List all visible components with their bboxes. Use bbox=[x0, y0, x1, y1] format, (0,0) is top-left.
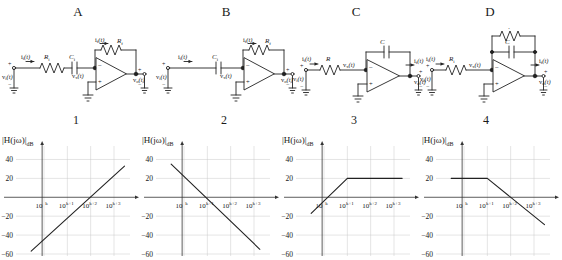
svg-text:k+3: k+3 bbox=[253, 201, 261, 206]
bode-plot-svg-3: 4020−20−40−6010k10k+110k+210k+3ω|H(jω)|d… bbox=[280, 132, 420, 260]
label-resistor-rf-a: Rf bbox=[116, 38, 123, 46]
ytick-label-2-1: 20 bbox=[146, 174, 154, 183]
xtick-label-4-2: 10k+2 bbox=[502, 201, 517, 211]
column-letter-a: A bbox=[58, 4, 98, 20]
plot-number-4: 4 bbox=[466, 113, 506, 128]
ytick-label-4-3: −40 bbox=[421, 231, 433, 240]
ytick-label-1-0: 40 bbox=[6, 155, 14, 164]
xtick-label-1-3: 10k+3 bbox=[106, 201, 121, 211]
circuit-diagram-c: ii(t) R C if(t) vi(t) vx(t) vo(t) + − + … bbox=[288, 38, 433, 110]
svg-text:k+1: k+1 bbox=[346, 201, 354, 206]
label-resistor-ri-a: Ri bbox=[43, 53, 50, 62]
xtick-label-4-0: 10k bbox=[456, 201, 469, 211]
ytick-label-2-0: 40 bbox=[146, 155, 154, 164]
ytick-label-2-3: −40 bbox=[141, 231, 153, 240]
svg-text:10: 10 bbox=[456, 202, 464, 210]
svg-text:k+2: k+2 bbox=[89, 201, 97, 206]
xtick-label-2-3: 10k+3 bbox=[246, 201, 261, 211]
svg-text:10: 10 bbox=[316, 202, 324, 210]
yaxis-label-3: |H(jω)| bbox=[282, 135, 307, 145]
opamp-inverting-input-c: − bbox=[369, 64, 373, 72]
plot-number-2: 2 bbox=[204, 113, 244, 128]
circuit-diagram-a: ii(t) Ri Ci if(t) Rf vi(t) vx(t) vo(t) +… bbox=[0, 38, 150, 110]
circuit-diagram-b: ii(t) Ci if(t) Rf vi(t) vx(t) vo(t) + − … bbox=[148, 38, 298, 110]
polarity-minus-input-a: − bbox=[8, 81, 12, 87]
polarity-plus-input-b: + bbox=[162, 61, 166, 67]
label-resistor-rf-b: Rf bbox=[264, 38, 271, 46]
label-input-current-a: ii(t) bbox=[21, 53, 30, 61]
bode-plot-3: 4020−20−40−6010k10k+110k+210k+3ω|H(jω)|d… bbox=[280, 132, 420, 260]
opamp-inverting-input-a: − bbox=[98, 62, 102, 70]
yaxis-label-sub-2: dB bbox=[167, 141, 174, 147]
yaxis-label-sub-1: dB bbox=[27, 141, 34, 147]
opamp-noninverting-input-c: + bbox=[369, 80, 373, 87]
yaxis-label-2: |H(jω)| bbox=[142, 135, 167, 145]
xtick-label-1-1: 10k+1 bbox=[59, 201, 74, 211]
ytick-label-2-4: −60 bbox=[141, 250, 153, 259]
yaxis-label-sub-4: dB bbox=[447, 141, 454, 147]
polarity-minus-input-d: − bbox=[426, 83, 430, 89]
polarity-minus-input-b: − bbox=[162, 81, 166, 87]
svg-text:k+3: k+3 bbox=[393, 201, 401, 206]
svg-text:10: 10 bbox=[176, 202, 184, 210]
svg-text:k+2: k+2 bbox=[509, 201, 517, 206]
yaxis-label-4: |H(jω)| bbox=[422, 135, 447, 145]
svg-text:k: k bbox=[325, 201, 328, 206]
yaxis-label-1: |H(jω)| bbox=[2, 135, 27, 145]
xtick-label-1-0: 10k bbox=[36, 201, 49, 211]
bode-plot-svg-2: 4020−20−40−6010k10k+110k+210k+3ω|H(jω)|d… bbox=[140, 132, 280, 260]
opamp-noninverting-input-d: + bbox=[495, 80, 499, 87]
svg-text:k: k bbox=[45, 201, 48, 206]
svg-text:k: k bbox=[465, 201, 468, 206]
xtick-label-4-1: 10k+1 bbox=[479, 201, 494, 211]
ytick-label-3-2: −20 bbox=[281, 212, 293, 221]
ytick-label-3-3: −40 bbox=[281, 231, 293, 240]
figure-root: A B C D bbox=[0, 0, 562, 260]
xtick-label-3-0: 10k bbox=[316, 201, 329, 211]
label-node-voltage-b: vx(t) bbox=[220, 72, 232, 80]
ytick-label-3-0: 40 bbox=[286, 155, 294, 164]
svg-text:k+2: k+2 bbox=[229, 201, 237, 206]
label-capacitor-ci-a: Ci bbox=[69, 53, 76, 62]
label-input-current-b: ii(t) bbox=[178, 53, 187, 61]
svg-text:k+1: k+1 bbox=[206, 201, 214, 206]
svg-text:k+3: k+3 bbox=[533, 201, 541, 206]
plot-number-3: 3 bbox=[334, 113, 374, 128]
yaxis-label-sub-3: dB bbox=[307, 141, 314, 147]
column-letter-d: D bbox=[470, 4, 510, 20]
polarity-plus-output-a: + bbox=[138, 67, 142, 73]
xtick-label-1-2: 10k+2 bbox=[82, 201, 97, 211]
label-node-voltage-d: vx(t) bbox=[469, 61, 481, 69]
plot-axes-3 bbox=[284, 141, 419, 256]
ytick-label-4-0: 40 bbox=[426, 155, 434, 164]
svg-text:k+2: k+2 bbox=[369, 201, 377, 206]
ytick-label-1-4: −60 bbox=[1, 250, 13, 259]
opamp-inverting-input-d: − bbox=[495, 64, 499, 72]
svg-text:k+3: k+3 bbox=[113, 201, 121, 206]
xtick-label-3-3: 10k+3 bbox=[386, 201, 401, 211]
label-capacitor-c-d: C bbox=[505, 38, 510, 46]
bode-plot-4: 4020−20−40−6010k10k+110k+210k+3ω|H(jω)|d… bbox=[420, 132, 560, 260]
ytick-label-1-2: −20 bbox=[1, 212, 13, 221]
label-resistor-ri-d: Ri bbox=[448, 55, 455, 64]
label-node-voltage-c: vx(t) bbox=[343, 61, 355, 69]
polarity-plus-output-d: + bbox=[544, 69, 548, 75]
label-node-voltage-a: vx(t) bbox=[72, 72, 84, 80]
ytick-label-4-1: 20 bbox=[426, 174, 434, 183]
svg-text:10: 10 bbox=[36, 202, 44, 210]
xtick-label-2-1: 10k+1 bbox=[199, 201, 214, 211]
label-capacitor-ci-b: Ci bbox=[212, 53, 219, 62]
plot-axes-2 bbox=[144, 141, 279, 256]
bode-plot-1: 4020−20−40−6010k10k+110k+210k+3ω|H(jω)|d… bbox=[0, 132, 140, 260]
plot-axes-1 bbox=[4, 141, 139, 256]
ytick-label-1-3: −40 bbox=[1, 231, 13, 240]
xtick-label-2-0: 10k bbox=[176, 201, 189, 211]
opamp-inverting-input-b: − bbox=[246, 62, 250, 70]
label-resistor-r-c: R bbox=[325, 55, 331, 63]
plot-number-1: 1 bbox=[56, 113, 96, 128]
bode-plot-svg-1: 4020−20−40−6010k10k+110k+210k+3ω|H(jω)|d… bbox=[0, 132, 140, 260]
polarity-plus-input-c: + bbox=[300, 63, 304, 69]
plot-axes-4 bbox=[424, 141, 559, 256]
svg-text:k: k bbox=[185, 201, 188, 206]
label-capacitor-c-c: C bbox=[380, 38, 385, 46]
